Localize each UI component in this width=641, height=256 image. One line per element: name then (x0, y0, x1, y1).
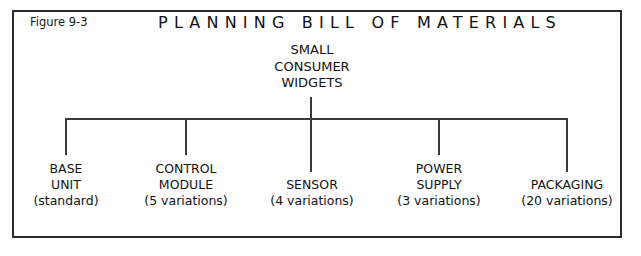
root-line-3: WIDGETS (232, 75, 392, 92)
tree-node-sensor: SENSOR (4 variations) (250, 177, 374, 209)
root-line-2: CONSUMER (232, 59, 392, 76)
node-label-line-2: MODULE (126, 177, 246, 193)
connector-leg-control-module (185, 118, 187, 155)
figure-canvas: Figure 9-3 PLANNING BILL OF MATERIALS SM… (0, 0, 641, 256)
node-label-line-1: PACKAGING (503, 177, 631, 193)
figure-number-label: Figure 9-3 (30, 15, 88, 29)
tree-node-base-unit: BASE UNIT (standard) (5, 161, 127, 209)
node-qty-label: (4 variations) (250, 193, 374, 209)
node-label-line-1: CONTROL (126, 161, 246, 177)
node-label-line-1: BASE (5, 161, 127, 177)
node-label-line-2: UNIT (5, 177, 127, 193)
tree-node-control-module: CONTROL MODULE (5 variations) (126, 161, 246, 209)
tree-node-power-supply: POWER SUPPLY (3 variations) (378, 161, 500, 209)
connector-leg-power-supply (438, 118, 440, 155)
connector-leg-base-unit (65, 118, 67, 155)
connector-leg-sensor (310, 118, 312, 172)
node-label-line-1: SENSOR (250, 177, 374, 193)
root-line-1: SMALL (232, 42, 392, 59)
node-qty-label: (3 variations) (378, 193, 500, 209)
node-qty-label: (5 variations) (126, 193, 246, 209)
node-qty-label: (20 variations) (503, 193, 631, 209)
tree-root-node: SMALL CONSUMER WIDGETS (232, 42, 392, 92)
node-label-line-2: SUPPLY (378, 177, 500, 193)
node-qty-label: (standard) (5, 193, 127, 209)
connector-root-stem (310, 97, 312, 119)
page-title: PLANNING BILL OF MATERIALS (120, 13, 600, 33)
node-label-line-1: POWER (378, 161, 500, 177)
connector-horizontal-bus (65, 118, 568, 120)
connector-leg-packaging (566, 118, 568, 172)
tree-node-packaging: PACKAGING (20 variations) (503, 177, 631, 209)
